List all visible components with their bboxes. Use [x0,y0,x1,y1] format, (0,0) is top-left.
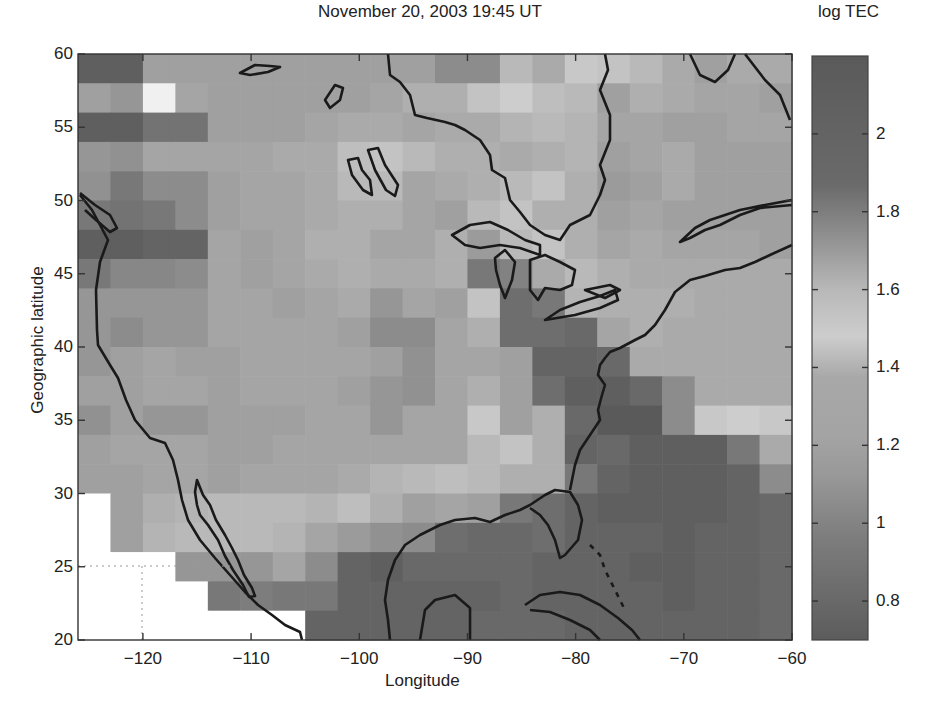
heatmap-cell [110,288,143,318]
heatmap-cell [110,406,143,436]
heatmap-cell [695,376,728,406]
heatmap-cell [143,288,176,318]
heatmap-cell [370,230,403,260]
heatmap-cell [78,611,111,641]
x-tick-label: −100 [329,649,389,669]
heatmap-cell [208,259,241,289]
heatmap-cell [305,406,338,436]
heatmap-cell [500,113,533,143]
heatmap-cell [403,288,436,318]
colorbar-tick-label: 1.2 [876,435,900,455]
heatmap-cell [143,201,176,231]
heatmap-cell [467,318,500,348]
heatmap-cell [467,288,500,318]
heatmap-cell [110,259,143,289]
heatmap-cell [175,54,208,84]
heatmap-cell [467,523,500,553]
heatmap-cell [338,201,371,231]
heatmap-cell [143,113,176,143]
heatmap-cell [532,406,565,436]
heatmap-cell [338,581,371,611]
heatmap-cell [500,464,533,494]
heatmap-cell [338,347,371,377]
heatmap-cell [695,83,728,113]
heatmap-cell [273,171,306,201]
heatmap-cell [370,288,403,318]
heatmap-cell [403,464,436,494]
heatmap-cell [435,464,468,494]
heatmap-cell [208,347,241,377]
heatmap-cell [727,406,760,436]
heatmap-cell [662,54,695,84]
heatmap-cell [630,406,663,436]
heatmap-cell [143,171,176,201]
heatmap-cell [110,494,143,524]
heatmap-cell [532,142,565,172]
heatmap-cell [630,552,663,582]
heatmap-cell [565,318,598,348]
heatmap-cell [662,464,695,494]
heatmap-cell [727,523,760,553]
heatmap-cell [78,318,111,348]
heatmap-cell [208,523,241,553]
y-tick-label: 40 [23,337,73,357]
heatmap-cell [435,171,468,201]
heatmap-cell [597,201,630,231]
heatmap-plot [0,0,927,712]
heatmap-cell [662,406,695,436]
y-tick-label: 50 [23,191,73,211]
heatmap-cell [727,376,760,406]
heatmap-cell [143,552,176,582]
heatmap-cell [273,376,306,406]
heatmap-cell [435,552,468,582]
heatmap-cell [110,581,143,611]
heatmap-cell [565,347,598,377]
heatmap-cell [467,435,500,465]
heatmap-cell [760,142,793,172]
heatmap-cell [500,259,533,289]
heatmap-cell [403,581,436,611]
heatmap-cell [403,318,436,348]
heatmap-cell [630,347,663,377]
colorbar-tick-label: 2 [876,124,885,144]
heatmap-cell [727,288,760,318]
heatmap-cell [240,230,273,260]
heatmap-cell [110,142,143,172]
heatmap-cell [500,201,533,231]
heatmap-cell [695,347,728,377]
heatmap-cell [435,376,468,406]
heatmap-cell [695,435,728,465]
heatmap-cell [500,376,533,406]
heatmap-cell [662,552,695,582]
heatmap-cell [240,494,273,524]
heatmap-cell [240,142,273,172]
heatmap-cell [597,464,630,494]
heatmap-cell [110,318,143,348]
heatmap-cell [662,142,695,172]
y-tick-label: 45 [23,264,73,284]
heatmap-cell [695,464,728,494]
heatmap-cell [565,113,598,143]
heatmap-cell [662,259,695,289]
y-tick-label: 30 [23,484,73,504]
heatmap-cell [500,581,533,611]
heatmap-cell [273,230,306,260]
heatmap-cell [630,230,663,260]
x-tick-label: −70 [654,649,714,669]
heatmap-cell [760,523,793,553]
y-tick-label: 25 [23,557,73,577]
heatmap-cell [662,523,695,553]
heatmap-cells [78,54,793,641]
heatmap-cell [143,435,176,465]
heatmap-cell [143,83,176,113]
heatmap-cell [110,523,143,553]
heatmap-cell [500,142,533,172]
heatmap-cell [110,435,143,465]
heatmap-cell [110,113,143,143]
heatmap-cell [273,201,306,231]
heatmap-cell [760,376,793,406]
heatmap-cell [695,318,728,348]
heatmap-cell [630,464,663,494]
heatmap-cell [435,259,468,289]
heatmap-cell [273,581,306,611]
